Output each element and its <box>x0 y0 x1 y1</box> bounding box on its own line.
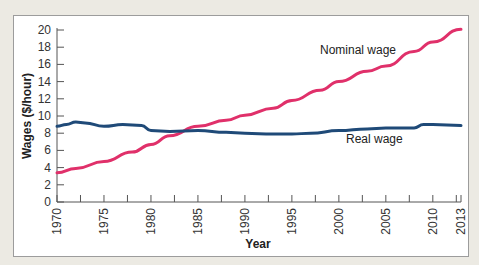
y-tick-label: 14 <box>38 75 52 89</box>
line-chart: 0246810121416182019701975198019851990199… <box>0 0 479 265</box>
y-tick-label: 18 <box>38 40 52 54</box>
x-tick-label: 1995 <box>285 208 299 235</box>
x-tick-label: 1975 <box>97 208 111 235</box>
y-tick-label: 8 <box>44 126 51 140</box>
y-tick-label: 0 <box>44 195 51 209</box>
y-tick-label: 6 <box>44 143 51 157</box>
x-tick-label: 2013 <box>454 208 468 235</box>
x-axis-label: Year <box>245 237 271 251</box>
real-wage-label: Real wage <box>346 132 403 146</box>
y-tick-label: 4 <box>44 161 51 175</box>
nominal-wage-line <box>57 29 461 173</box>
y-tick-label: 12 <box>38 92 52 106</box>
x-tick-label: 1990 <box>238 208 252 235</box>
x-tick-label: 2010 <box>426 208 440 235</box>
y-tick-label: 2 <box>44 178 51 192</box>
nominal-wage-label: Nominal wage <box>320 43 396 57</box>
x-tick-label: 1980 <box>144 208 158 235</box>
y-tick-label: 20 <box>38 23 52 37</box>
x-tick-label: 1985 <box>191 208 205 235</box>
y-axis-label: Wages ($/hour) <box>20 73 34 159</box>
x-tick-label: 2000 <box>332 208 346 235</box>
x-tick-label: 2005 <box>379 208 393 235</box>
y-tick-label: 16 <box>38 57 52 71</box>
y-tick-label: 10 <box>38 109 52 123</box>
x-tick-label: 1970 <box>50 208 64 235</box>
